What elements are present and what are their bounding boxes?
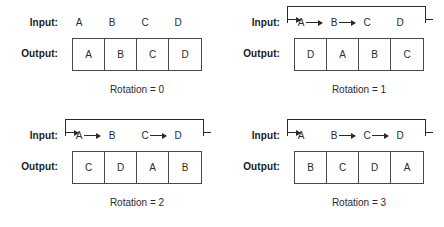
output-cell: B	[359, 39, 391, 70]
arrow-icon	[372, 135, 388, 136]
wraparound-tail	[203, 132, 211, 133]
output-array: D A B C	[294, 38, 424, 71]
output-array: B C D A	[294, 151, 424, 184]
wraparound-tail	[425, 132, 433, 133]
panel-rotation-3: Input: Output: A B C D B C D A Rotation …	[222, 113, 444, 226]
input-sequence: A B C D	[294, 119, 426, 145]
input-sequence: A B C D	[72, 119, 204, 145]
panel-caption: Rotation = 3	[274, 197, 444, 208]
input-row-label: Input:	[230, 130, 280, 141]
panel-caption: Rotation = 2	[52, 197, 222, 208]
arrow-icon	[84, 135, 100, 136]
input-letter: A	[72, 130, 86, 142]
output-cell: A	[391, 152, 423, 183]
input-row-label: Input:	[8, 130, 58, 141]
input-letter: A	[294, 17, 308, 29]
output-array: A B C D	[72, 38, 202, 71]
panel-rotation-2: Input: Output: A B C D C D A B Rotation …	[0, 113, 222, 226]
input-letter: D	[171, 17, 185, 29]
rotation-diagram: Input: Output: A B C D A B C D Rotation …	[0, 0, 444, 227]
output-row-label: Output:	[8, 161, 58, 172]
output-cell: D	[359, 152, 391, 183]
output-row-label: Output:	[230, 48, 280, 59]
input-letter: C	[138, 130, 152, 142]
input-sequence: A B C D	[294, 6, 426, 32]
input-letter: C	[138, 17, 152, 29]
output-cell: D	[169, 39, 201, 70]
input-letter: C	[360, 130, 374, 142]
input-letter: B	[327, 17, 341, 29]
output-cell: C	[391, 39, 423, 70]
input-letter: B	[105, 130, 119, 142]
output-cell: D	[105, 152, 137, 183]
arrow-icon	[339, 135, 355, 136]
output-cell: B	[105, 39, 137, 70]
output-row-label: Output:	[230, 161, 280, 172]
output-cell: C	[73, 152, 105, 183]
input-letter: D	[171, 130, 185, 142]
output-row-label: Output:	[8, 48, 58, 59]
wraparound-tail	[425, 19, 433, 20]
arrow-icon	[306, 22, 322, 23]
panel-rotation-0: Input: Output: A B C D A B C D Rotation …	[0, 0, 222, 113]
input-sequence: A B C D	[72, 6, 204, 32]
output-cell: B	[169, 152, 201, 183]
panel-caption: Rotation = 0	[52, 84, 222, 95]
output-cell: A	[137, 152, 169, 183]
input-letter: B	[105, 17, 119, 29]
output-cell: A	[327, 39, 359, 70]
output-cell: A	[73, 39, 105, 70]
input-letter: D	[393, 17, 407, 29]
input-row-label: Input:	[230, 17, 280, 28]
panel-rotation-1: Input: Output: A B C D D A B C Rotation …	[222, 0, 444, 113]
output-array: C D A B	[72, 151, 202, 184]
arrow-icon	[339, 22, 355, 23]
output-cell: D	[295, 39, 327, 70]
input-letter: A	[294, 130, 308, 142]
input-letter: B	[327, 130, 341, 142]
input-letter: D	[393, 130, 407, 142]
output-cell: C	[327, 152, 359, 183]
panel-caption: Rotation = 1	[274, 84, 444, 95]
output-cell: B	[295, 152, 327, 183]
output-cell: C	[137, 39, 169, 70]
input-letter: A	[72, 17, 86, 29]
arrow-icon	[150, 135, 166, 136]
input-row-label: Input:	[8, 17, 58, 28]
input-letter: C	[360, 17, 374, 29]
